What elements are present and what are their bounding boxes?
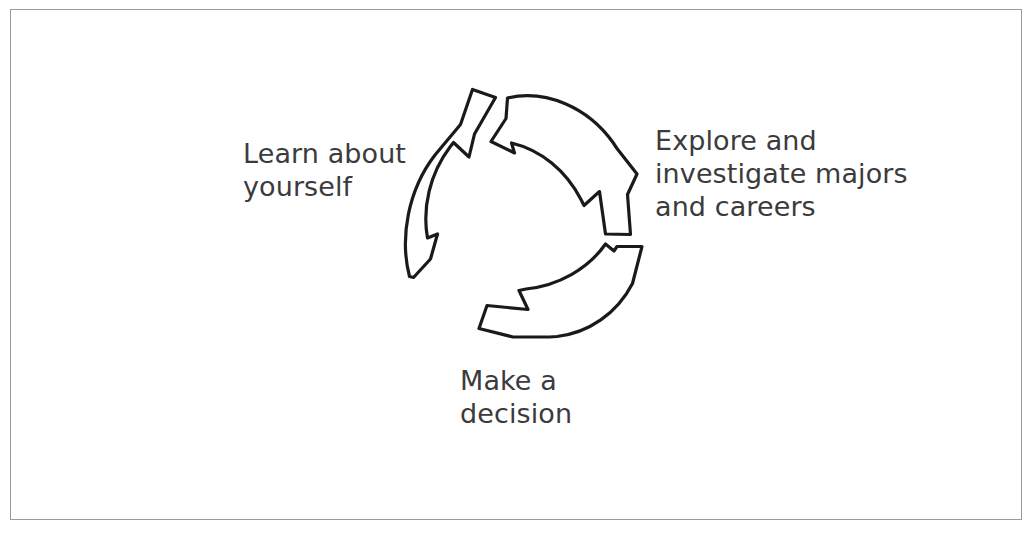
label-make-a-decision: Make a decision	[460, 364, 680, 430]
figure-root: Learn about yourself Explore and investi…	[0, 0, 1034, 533]
curved-arrow-icon-bottom	[479, 244, 642, 337]
label-explore-and-investigate: Explore and investigate majors and caree…	[655, 124, 915, 223]
cycle-diagram	[383, 78, 653, 348]
curved-arrow-icon-right	[491, 96, 637, 235]
label-learn-about-yourself: Learn about yourself	[243, 137, 443, 203]
